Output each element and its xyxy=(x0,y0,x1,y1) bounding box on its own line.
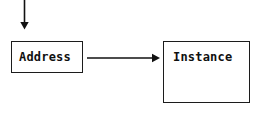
incoming-arrow xyxy=(14,0,36,32)
diagram-canvas: Address Instance xyxy=(0,0,255,114)
node-address-label: Address xyxy=(19,51,71,63)
address-to-instance-arrow xyxy=(86,49,164,67)
node-instance-label: Instance xyxy=(173,51,232,63)
